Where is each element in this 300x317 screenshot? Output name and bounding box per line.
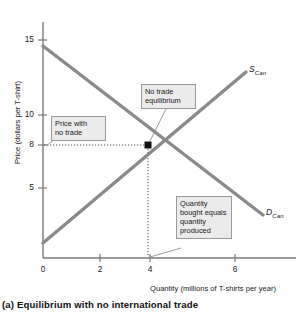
annotation-quantity-bought-produced: Quantity bought equals quantity produced [176,196,232,239]
annotation-price-no-trade: Price with no trade [51,116,106,141]
x-tick-label-0: 0 [33,264,53,274]
equilibrium-point-marker [145,142,152,149]
x-tick-label-2: 2 [90,264,110,274]
y-tick-label-5: 5 [14,182,34,192]
x-tick-label-6: 6 [225,264,245,274]
figure-caption: (a) Equilibrium with no international tr… [2,299,298,310]
leader-line-quantity [150,248,181,257]
figure-equilibrium-no-trade: Price (dollars per T-shirt) Quantity (mi… [0,0,300,317]
y-axis-title: Price (dollars per T-shirt) [13,80,22,166]
supply-curve-label-subscript: Can [255,69,266,76]
supply-curve-label: SCan [249,64,266,76]
y-tick-label-10: 10 [14,109,34,119]
demand-curve-label-subscript: Can [272,212,283,219]
y-tick-label-8: 8 [14,139,34,149]
demand-curve-label: DCan [266,207,284,219]
x-tick-label-4: 4 [140,264,160,274]
x-axis-title: Quantity (millions of T-shirts per year) [150,284,276,293]
annotation-no-trade-equilibrium: No trade equilibrium [141,84,196,109]
y-tick-label-15: 15 [14,34,34,44]
